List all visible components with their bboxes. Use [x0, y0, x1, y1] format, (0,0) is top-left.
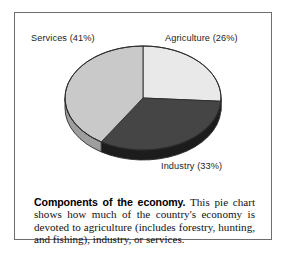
figure-caption: Components of the economy. This pie char… [34, 196, 255, 245]
figure-frame: Services (41%) Agriculture (26%) Industr… [14, 12, 272, 240]
figure-root: Services (41%) Agriculture (26%) Industr… [0, 0, 288, 273]
pie-slice-agriculture [143, 46, 221, 101]
pie-label-industry: Industry (33%) [161, 161, 222, 171]
pie-label-agriculture: Agriculture (26%) [165, 33, 238, 43]
pie-chart: Services (41%) Agriculture (26%) Industr… [15, 13, 271, 178]
figure-caption-lead: Components of the economy. [34, 196, 185, 208]
pie-label-services: Services (41%) [31, 33, 95, 43]
